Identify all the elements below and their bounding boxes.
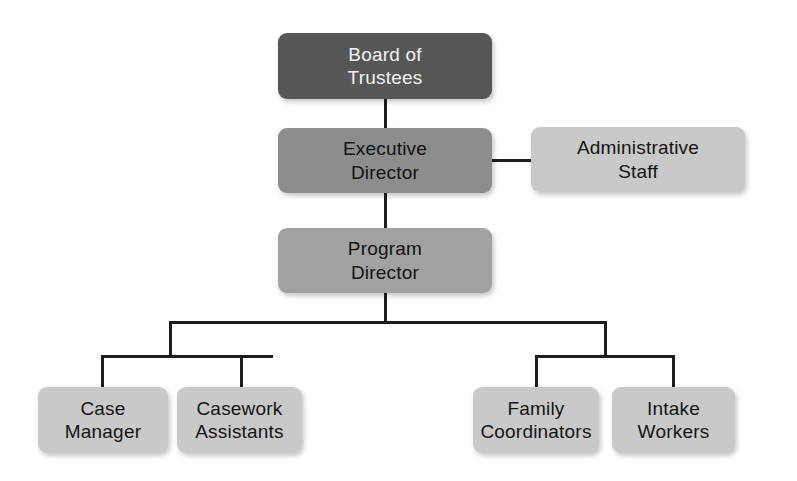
org-chart-canvas: Board ofTrustees ExecutiveDirector Admin… — [0, 0, 797, 481]
node-executive-director[interactable]: ExecutiveDirector — [278, 128, 492, 193]
node-executive-director-label: ExecutiveDirector — [339, 137, 431, 183]
connector-to-case-manager — [101, 355, 104, 388]
connector-right-branch-bus — [535, 355, 674, 358]
connector-to-family-coordinators — [535, 355, 538, 388]
connector-program-bus — [169, 321, 606, 324]
connector-board-to-executive — [384, 99, 387, 129]
node-casework-assistants-label: CaseworkAssistants — [191, 397, 288, 443]
connector-to-intake-workers — [672, 355, 675, 388]
connector-executive-to-program — [384, 192, 387, 229]
connector-program-drop — [384, 292, 387, 323]
node-intake-workers-label: IntakeWorkers — [634, 397, 714, 443]
node-board-of-trustees-label: Board ofTrustees — [344, 43, 427, 89]
node-casework-assistants[interactable]: CaseworkAssistants — [177, 387, 302, 453]
connector-left-branch-drop — [169, 321, 172, 357]
connector-executive-to-admin — [492, 159, 532, 162]
connector-left-branch-bus — [101, 355, 273, 358]
node-case-manager-label: CaseManager — [61, 397, 145, 443]
node-board-of-trustees[interactable]: Board ofTrustees — [278, 33, 492, 99]
node-case-manager[interactable]: CaseManager — [38, 387, 168, 453]
connector-to-casework-assistants — [240, 355, 243, 388]
node-family-coordinators[interactable]: FamilyCoordinators — [473, 387, 599, 453]
node-program-director[interactable]: ProgramDirector — [278, 228, 492, 293]
connector-right-branch-drop — [604, 321, 607, 357]
node-intake-workers[interactable]: IntakeWorkers — [612, 387, 735, 453]
node-administrative-staff[interactable]: AdministrativeStaff — [531, 127, 745, 192]
node-program-director-label: ProgramDirector — [344, 237, 426, 283]
node-administrative-staff-label: AdministrativeStaff — [573, 136, 703, 182]
node-family-coordinators-label: FamilyCoordinators — [476, 397, 595, 443]
